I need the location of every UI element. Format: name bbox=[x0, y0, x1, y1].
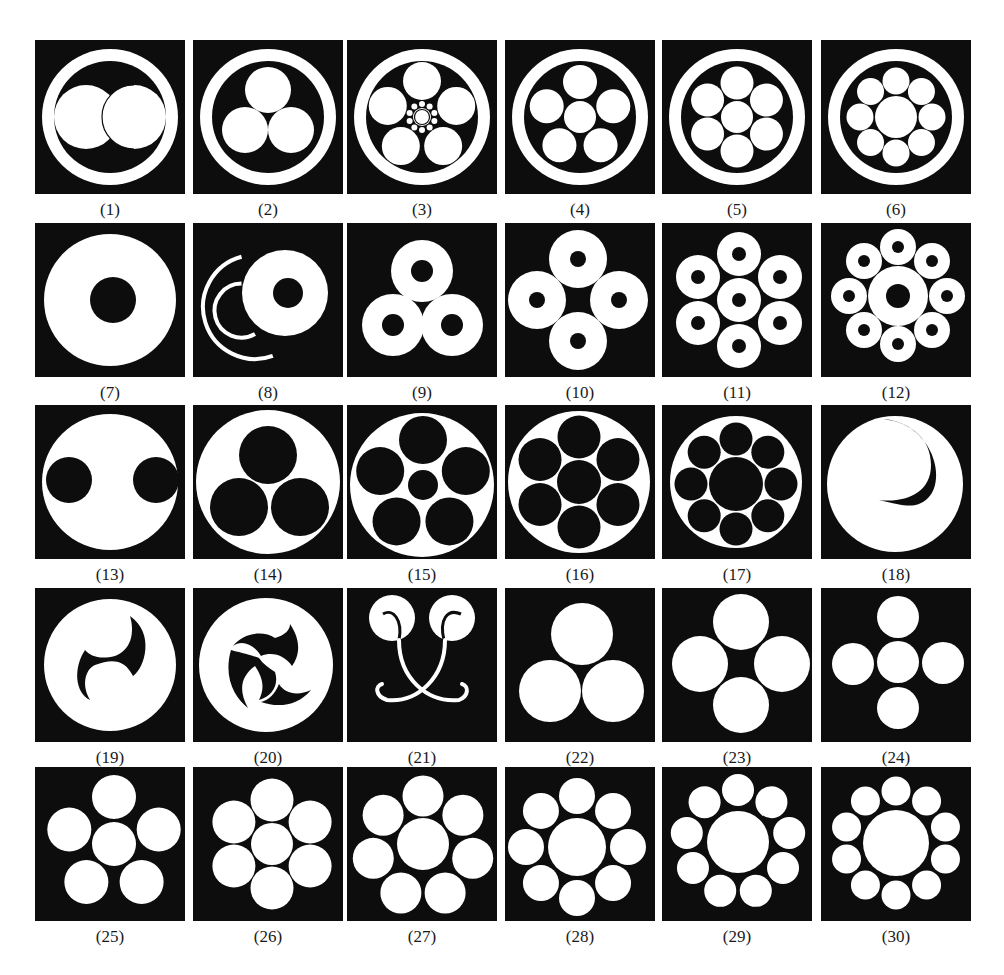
emblem-two-comma-tomoe bbox=[35, 588, 185, 742]
emblem-three-comma-tomoe bbox=[193, 588, 343, 742]
emblem-eight-white-circles-seven-around-one bbox=[347, 767, 497, 921]
emblem-label: (13) bbox=[35, 565, 185, 585]
emblem-three-ring-discs bbox=[347, 223, 497, 377]
emblem-nine-circles-in-ring bbox=[821, 40, 971, 194]
emblem-four-ring-discs bbox=[505, 223, 655, 377]
emblem-graphic bbox=[662, 767, 812, 921]
emblem-six-white-circles-five-around-one bbox=[35, 767, 185, 921]
emblem-label: (1) bbox=[35, 200, 185, 220]
emblem-seven-white-circles bbox=[193, 767, 343, 921]
emblem-label: (10) bbox=[505, 383, 655, 403]
emblem-crescent-cut-disc bbox=[821, 405, 971, 559]
emblem-graphic bbox=[347, 223, 497, 377]
emblem-graphic bbox=[35, 223, 185, 377]
emblem-label: (19) bbox=[35, 748, 185, 768]
emblem-label: (4) bbox=[505, 200, 655, 220]
emblem-label: (21) bbox=[347, 748, 497, 768]
emblem-label: (24) bbox=[821, 748, 971, 768]
emblem-three-circles-in-ring bbox=[193, 40, 343, 194]
emblem-graphic bbox=[821, 588, 971, 742]
emblem-label: (27) bbox=[347, 927, 497, 947]
emblem-graphic bbox=[347, 405, 497, 559]
emblem-label: (29) bbox=[662, 927, 812, 947]
emblem-nine-black-circles-in-disc bbox=[662, 405, 812, 559]
emblem-large-ring-disc bbox=[35, 223, 185, 377]
emblem-five-black-circles-with-center-in-disc bbox=[347, 405, 497, 559]
emblem-graphic bbox=[193, 767, 343, 921]
emblem-graphic bbox=[193, 223, 343, 377]
emblem-label: (8) bbox=[193, 383, 343, 403]
emblem-two-circles-with-tendrils bbox=[347, 588, 497, 742]
emblem-graphic bbox=[662, 588, 812, 742]
emblem-three-black-circles-in-disc bbox=[193, 405, 343, 559]
emblem-label: (7) bbox=[35, 383, 185, 403]
emblem-label: (18) bbox=[821, 565, 971, 585]
emblem-graphic bbox=[821, 40, 971, 194]
emblem-label: (26) bbox=[193, 927, 343, 947]
emblem-graphic bbox=[35, 588, 185, 742]
emblem-label: (16) bbox=[505, 565, 655, 585]
emblem-five-white-circles-cross bbox=[821, 588, 971, 742]
emblem-label: (9) bbox=[347, 383, 497, 403]
emblem-label: (28) bbox=[505, 927, 655, 947]
emblem-label: (17) bbox=[662, 565, 812, 585]
emblem-seven-ring-discs bbox=[662, 223, 812, 377]
emblem-label: (23) bbox=[662, 748, 812, 768]
emblem-seven-black-circles-in-disc bbox=[505, 405, 655, 559]
emblem-label: (6) bbox=[821, 200, 971, 220]
emblem-graphic bbox=[505, 223, 655, 377]
emblem-graphic bbox=[193, 588, 343, 742]
emblem-label: (25) bbox=[35, 927, 185, 947]
emblem-label: (14) bbox=[193, 565, 343, 585]
emblem-label: (15) bbox=[347, 565, 497, 585]
emblem-graphic bbox=[347, 40, 497, 194]
emblem-eleven-white-circles bbox=[821, 767, 971, 921]
emblem-ten-white-circles bbox=[662, 767, 812, 921]
emblem-graphic bbox=[662, 40, 812, 194]
emblem-label: (20) bbox=[193, 748, 343, 768]
emblem-graphic bbox=[505, 588, 655, 742]
emblem-label: (3) bbox=[347, 200, 497, 220]
emblem-graphic bbox=[505, 767, 655, 921]
emblem-graphic bbox=[662, 223, 812, 377]
emblem-graphic bbox=[662, 405, 812, 559]
emblem-graphic bbox=[347, 767, 497, 921]
emblem-five-circles-with-small-center-ring bbox=[347, 40, 497, 194]
emblem-disc-with-two-side-cutouts bbox=[35, 405, 185, 559]
emblem-graphic bbox=[821, 405, 971, 559]
emblem-graphic bbox=[821, 223, 971, 377]
emblem-six-circles-five-around-one-in-ring bbox=[505, 40, 655, 194]
emblem-graphic bbox=[35, 405, 185, 559]
emblem-graphic bbox=[193, 405, 343, 559]
emblem-graphic bbox=[505, 405, 655, 559]
emblem-four-white-circles bbox=[662, 588, 812, 742]
emblem-graphic bbox=[505, 40, 655, 194]
emblem-three-white-circles bbox=[505, 588, 655, 742]
emblem-graphic bbox=[193, 40, 343, 194]
emblem-label: (11) bbox=[662, 383, 812, 403]
emblem-graphic bbox=[347, 588, 497, 742]
emblem-graphic bbox=[35, 40, 185, 194]
emblem-graphic bbox=[821, 767, 971, 921]
emblem-graphic bbox=[35, 767, 185, 921]
emblem-nine-ring-discs bbox=[821, 223, 971, 377]
emblem-label: (30) bbox=[821, 927, 971, 947]
emblem-label: (12) bbox=[821, 383, 971, 403]
emblem-two-overlapping-circles-in-ring bbox=[35, 40, 185, 194]
emblem-label: (5) bbox=[662, 200, 812, 220]
emblem-seven-circles-in-ring bbox=[662, 40, 812, 194]
emblem-label: (22) bbox=[505, 748, 655, 768]
emblem-label: (2) bbox=[193, 200, 343, 220]
emblem-ring-disc-with-ripple-arcs bbox=[193, 223, 343, 377]
emblem-nine-white-circles bbox=[505, 767, 655, 921]
